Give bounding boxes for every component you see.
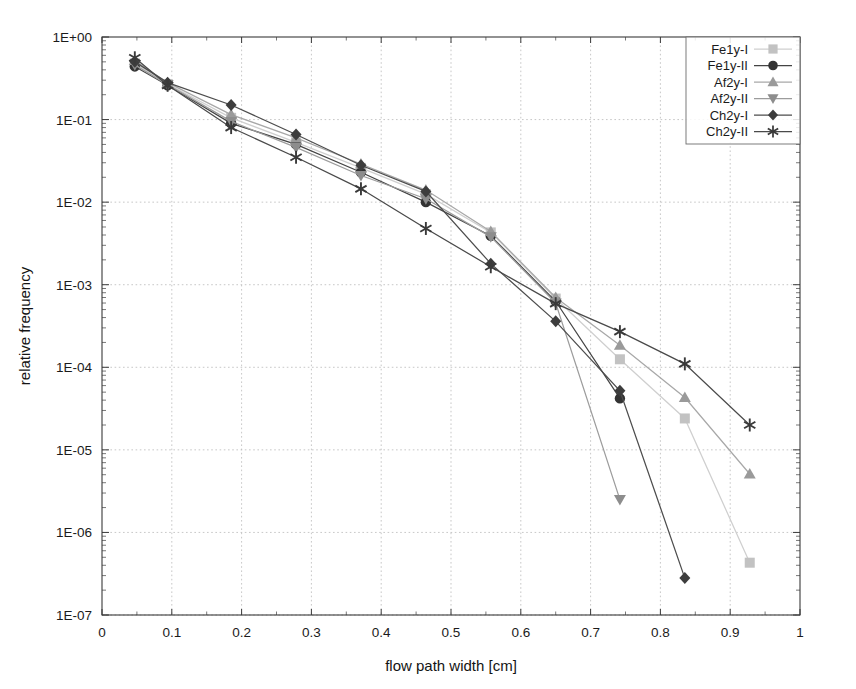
x-tick-label: 0.1 [162, 625, 181, 640]
data-series-layer [129, 51, 756, 584]
x-tick-label: 0.2 [232, 625, 251, 640]
marker-square [745, 558, 755, 568]
marker-asterisk [420, 222, 431, 235]
chart-legend: Fe1y-IFe1y-IIAf2y-IAf2y-IICh2y-ICh2y-II [686, 37, 800, 144]
y-tick-label: 1E+00 [53, 30, 92, 45]
x-tick-label: 0.4 [372, 625, 391, 640]
marker-triangle-down [355, 171, 367, 182]
x-tick-label: 0 [98, 625, 106, 640]
x-tick-label: 0.8 [651, 625, 670, 640]
y-tick-label: 1E-07 [56, 608, 92, 623]
y-tick-label: 1E-02 [56, 195, 92, 210]
y-axis-title: relative frequency [16, 266, 33, 385]
x-tick-label: 0.7 [581, 625, 600, 640]
marker-square [680, 413, 690, 423]
marker-diamond [679, 572, 690, 584]
relative-frequency-vs-flow-path-width-chart: 00.10.20.30.40.50.60.70.80.91 1E+001E-01… [0, 0, 856, 689]
legend-item-label: Ch2y-I [710, 108, 748, 123]
legend-item-label: Fe1y-II [708, 58, 748, 73]
marker-square [615, 354, 625, 364]
y-tick-label: 1E-05 [56, 443, 92, 458]
legend-item-label: Ch2y-II [706, 124, 748, 139]
y-axis-tick-labels: 1E+001E-011E-021E-031E-041E-051E-061E-07 [53, 30, 93, 623]
x-tick-label: 0.6 [511, 625, 530, 640]
series-af2y-ii [129, 60, 626, 505]
y-tick-label: 1E-01 [56, 113, 92, 128]
marker-asterisk [355, 182, 366, 195]
x-tick-label: 0.5 [442, 625, 461, 640]
marker-asterisk [290, 151, 301, 164]
x-axis-tick-labels: 00.10.20.30.40.50.60.70.80.91 [98, 625, 804, 640]
x-tick-label: 0.9 [721, 625, 740, 640]
marker-triangle-down [614, 495, 626, 506]
legend-item-label: Fe1y-I [711, 42, 748, 57]
series-line [135, 66, 620, 398]
series-ch2y-i [129, 56, 690, 584]
y-tick-label: 1E-04 [56, 360, 93, 375]
marker-triangle-up [614, 339, 626, 350]
x-axis-title: flow path width [cm] [385, 657, 517, 674]
y-tick-label: 1E-03 [56, 278, 92, 293]
series-fe1y-ii [130, 61, 626, 403]
series-line [135, 63, 750, 562]
x-tick-label: 0.3 [302, 625, 321, 640]
marker-triangle-up [679, 392, 691, 403]
x-tick-label: 1 [796, 625, 804, 640]
series-fe1y-i [130, 58, 755, 567]
series-line [135, 62, 685, 578]
marker-diamond [226, 99, 237, 111]
series-ch2y-ii [129, 51, 755, 431]
legend-item-label: Af2y-II [710, 91, 748, 106]
y-tick-label: 1E-06 [56, 525, 92, 540]
marker-square [768, 44, 777, 53]
series-line [135, 65, 620, 500]
marker-circle [768, 61, 778, 71]
marker-asterisk [614, 325, 625, 338]
chart-figure: 00.10.20.30.40.50.60.70.80.91 1E+001E-01… [0, 0, 856, 689]
legend-item-label: Af2y-I [714, 75, 748, 90]
